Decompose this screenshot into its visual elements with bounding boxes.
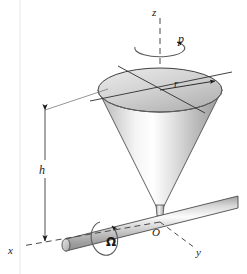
physics-diagram-figure: z p r h x y O Ω <box>0 0 247 274</box>
rod-left-end-cap <box>62 239 70 251</box>
label-z-axis: z <box>152 7 156 18</box>
label-spin-rate-p: p <box>178 33 184 45</box>
diagram-canvas <box>0 0 247 274</box>
height-dimension-group <box>45 89 108 241</box>
label-x-axis: x <box>8 245 13 256</box>
label-radius-r: r <box>174 78 178 89</box>
label-origin-o: O <box>152 227 160 238</box>
cone-group <box>90 66 232 216</box>
label-y-axis: y <box>196 247 201 258</box>
rod-group <box>62 196 238 255</box>
label-height-h: h <box>39 164 45 176</box>
label-rod-rate-omega: Ω <box>106 236 116 248</box>
